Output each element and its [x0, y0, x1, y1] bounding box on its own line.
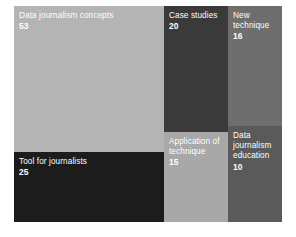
treemap-cell-label: Data journalism education: [233, 131, 277, 162]
treemap-cell-label: Data journalism concepts: [19, 11, 159, 21]
treemap-cell-value: 53: [19, 21, 159, 32]
treemap-cell-data-journalism-education[interactable]: Data journalism education 10: [228, 126, 282, 222]
treemap-cell-label: Application of technique: [169, 137, 223, 157]
treemap-column-right: New technique 16 Data journalism educati…: [228, 6, 282, 222]
treemap-cell-value: 20: [169, 21, 223, 32]
treemap-cell-label: Case studies: [169, 11, 223, 21]
treemap-cell-label: New technique: [233, 11, 277, 31]
treemap-cell-value: 15: [169, 157, 223, 168]
treemap-cell-value: 10: [233, 162, 277, 173]
treemap-cell-value: 25: [19, 167, 159, 178]
treemap-cell-case-studies[interactable]: Case studies 20: [164, 6, 228, 132]
treemap-cell-data-journalism-concepts[interactable]: Data journalism concepts 53: [14, 6, 164, 152]
treemap-figure: Data journalism concepts 53 Tool for jou…: [0, 0, 296, 237]
treemap-cell-application-of-technique[interactable]: Application of technique 15: [164, 132, 228, 222]
treemap-column-middle: Case studies 20 Application of technique…: [164, 6, 228, 222]
treemap-cell-value: 16: [233, 31, 277, 42]
treemap-cell-tool-for-journalists[interactable]: Tool for journalists 25: [14, 152, 164, 222]
treemap-cell-label: Tool for journalists: [19, 157, 159, 167]
treemap-column-left: Data journalism concepts 53 Tool for jou…: [14, 6, 164, 222]
treemap-plot-area: Data journalism concepts 53 Tool for jou…: [14, 6, 282, 222]
treemap-cell-new-technique[interactable]: New technique 16: [228, 6, 282, 126]
